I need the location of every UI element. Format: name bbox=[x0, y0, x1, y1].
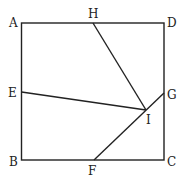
label-b: B bbox=[9, 155, 18, 169]
square-abcd bbox=[22, 23, 165, 160]
label-a: A bbox=[8, 16, 18, 30]
label-h: H bbox=[88, 7, 98, 21]
label-e: E bbox=[8, 86, 17, 100]
label-d: D bbox=[167, 16, 177, 30]
label-f: F bbox=[88, 164, 96, 178]
label-g: G bbox=[167, 88, 177, 102]
geometry-diagram: A H D E G I B F C bbox=[0, 0, 185, 183]
segment-ei bbox=[22, 92, 147, 110]
segment-fg bbox=[94, 93, 164, 160]
segment-hi bbox=[93, 23, 146, 110]
label-c: C bbox=[167, 155, 176, 169]
label-i: I bbox=[146, 113, 151, 127]
